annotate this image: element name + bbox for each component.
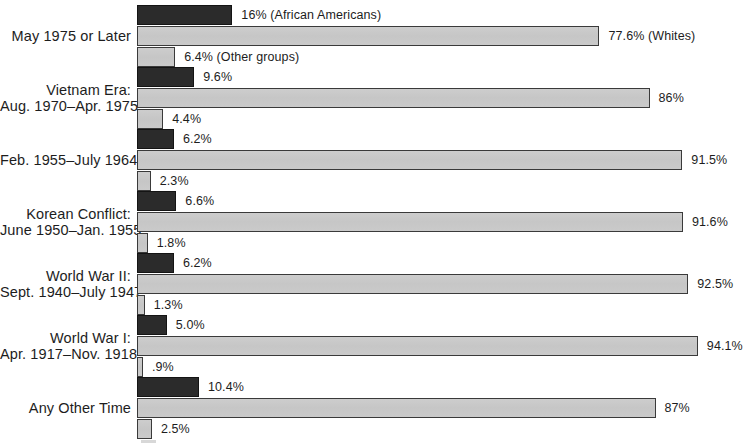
category-label: Feb. 1955–July 1964 [0,152,131,169]
category-label: Korean Conflict:June 1950–Jan. 1955 [0,206,131,239]
bar-fill-african-americans [137,67,194,87]
bar-value-label: 6.2% [183,256,212,270]
category-label-line: June 1950–Jan. 1955 [0,222,131,239]
bar [137,67,194,87]
bar-group: May 1975 or Later16% (African Americans)… [0,5,750,67]
bar-value-label: 77.6% (Whites) [608,29,695,43]
bar [137,336,698,356]
bar [137,5,232,25]
bar-fill-whites [137,26,599,46]
bar-value-label: 92.5% [697,277,733,291]
bar-value-label: 91.6% [692,215,728,229]
bar-fill-other-groups [137,47,175,67]
bar [137,398,656,418]
category-label-line: May 1975 or Later [0,28,131,45]
bar-group: Any Other Time10.4%87%2.5% [0,377,750,439]
bar-value-label: 6.4% (Other groups) [184,50,299,64]
bar-fill-african-americans [137,315,167,335]
bar [137,315,167,335]
bar-fill-african-americans [137,5,232,25]
bar [137,212,683,232]
bar-value-label: 6.6% [185,194,214,208]
category-label-line: Korean Conflict: [0,206,131,223]
bar-value-label: 10.4% [208,380,244,394]
bar-fill-whites [137,212,683,232]
bar-value-label: 16% (African Americans) [241,8,381,22]
category-label: May 1975 or Later [0,28,131,45]
bar-fill-african-americans [137,191,176,211]
category-label: Any Other Time [0,400,131,417]
category-label-line: Feb. 1955–July 1964 [0,152,131,169]
bar-value-label: 91.5% [691,153,727,167]
bar-fill-other-groups [137,233,148,253]
bar [137,26,599,46]
bar-group: Vietnam Era:Aug. 1970–Apr. 19759.6%86%4.… [0,67,750,129]
bar-fill-whites [137,336,698,356]
bar [137,357,143,377]
category-label: World War II:Sept. 1940–July 1947 [0,268,131,301]
bar-group: World War II:Sept. 1940–July 19476.2%92.… [0,253,750,315]
category-label-line: Aug. 1970–Apr. 1975 [0,98,131,115]
bar [137,109,163,129]
bar [137,295,145,315]
bar-value-label: 5.0% [176,318,205,332]
bar-fill-african-americans [137,129,174,149]
bar-fill-other-groups [137,171,151,191]
category-label-line: Sept. 1940–July 1947 [0,284,131,301]
bar [137,129,174,149]
bar-group: Korean Conflict:June 1950–Jan. 19556.6%9… [0,191,750,253]
bar-value-label: 2.5% [161,422,190,436]
category-label-line: Vietnam Era: [0,82,131,99]
bar [137,253,174,273]
bar-value-label: 1.8% [157,236,186,250]
bar [137,191,176,211]
bar-fill-other-groups [137,419,152,439]
bar [137,419,152,439]
bar [137,88,650,108]
bar-fill-whites [137,274,688,294]
bar [137,47,175,67]
bar-value-label: 1.3% [154,298,183,312]
bar-value-label: 9.6% [203,70,232,84]
category-label-line: Apr. 1917–Nov. 1918 [0,346,131,363]
bar-fill-african-americans [137,253,174,273]
bar [137,233,148,253]
bar-group: World War I:Apr. 1917–Nov. 19185.0%94.1%… [0,315,750,377]
bar [137,274,688,294]
bar-fill-other-groups [137,357,143,377]
bar-value-label: 2.3% [160,174,189,188]
category-label-line: World War I: [0,330,131,347]
bar-fill-whites [137,88,650,108]
bar-value-label: 86% [659,91,684,105]
bar-value-label: 94.1% [707,339,743,353]
category-label: World War I:Apr. 1917–Nov. 1918 [0,330,131,363]
bar [137,150,682,170]
bar-fill-other-groups [137,109,163,129]
category-label-line: World War II: [0,268,131,285]
category-label: Vietnam Era:Aug. 1970–Apr. 1975 [0,82,131,115]
bar-fill-whites [137,398,656,418]
bar-group: Feb. 1955–July 19646.2%91.5%2.3% [0,129,750,191]
bar-value-label: 6.2% [183,132,212,146]
bar-value-label: .9% [152,360,174,374]
bar-fill-other-groups [137,295,145,315]
bar-fill-african-americans [137,377,199,397]
bar-fill-whites [137,150,682,170]
category-label-line: Any Other Time [0,400,131,417]
bar [137,171,151,191]
bar-value-label: 4.4% [172,112,201,126]
bar [137,377,199,397]
bar-value-label: 87% [665,401,690,415]
